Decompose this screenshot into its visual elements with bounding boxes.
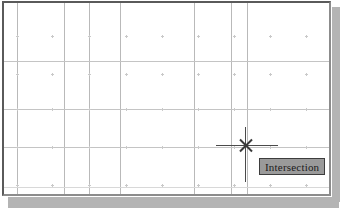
grid-dot xyxy=(233,108,236,111)
grid-line-vertical xyxy=(89,3,90,194)
grid-dot xyxy=(233,73,236,76)
grid-dot xyxy=(125,146,128,149)
grid-dot xyxy=(233,35,236,38)
grid-dot xyxy=(269,184,272,187)
grid-line-vertical xyxy=(64,3,65,194)
grid-line-horizontal xyxy=(4,187,329,188)
grid-line-vertical xyxy=(120,3,121,194)
grid-dot xyxy=(125,35,128,38)
grid-dot xyxy=(305,146,308,149)
grid-dot xyxy=(16,73,19,76)
grid-dot xyxy=(197,146,200,149)
grid-dot xyxy=(16,108,19,111)
grid-dot xyxy=(16,35,19,38)
grid-dot xyxy=(88,35,91,38)
crosshair-vertical xyxy=(245,127,246,182)
grid-dot xyxy=(16,184,19,187)
grid-dot xyxy=(233,184,236,187)
grid-dot xyxy=(88,184,91,187)
grid-dot xyxy=(269,108,272,111)
grid-dot xyxy=(125,73,128,76)
grid-dot xyxy=(125,184,128,187)
grid-dot xyxy=(51,108,54,111)
grid-dot xyxy=(197,184,200,187)
grid-dot xyxy=(161,184,164,187)
grid-dot xyxy=(305,184,308,187)
grid-dot xyxy=(51,35,54,38)
grid-dot xyxy=(269,73,272,76)
grid-dot xyxy=(269,146,272,149)
osnap-tooltip-label: Intersection xyxy=(265,161,319,173)
grid-dot xyxy=(51,146,54,149)
window-shadow-bottom xyxy=(8,197,339,208)
grid-line-horizontal xyxy=(4,61,329,62)
grid-dot xyxy=(88,108,91,111)
grid-line-vertical xyxy=(231,3,232,194)
grid-dot xyxy=(161,35,164,38)
grid-dot xyxy=(197,35,200,38)
window-shadow-right xyxy=(332,7,340,202)
grid-dot xyxy=(16,146,19,149)
grid-dot xyxy=(161,146,164,149)
screen-root: Intersection xyxy=(0,0,342,214)
grid-line-vertical xyxy=(17,3,18,194)
grid-dot xyxy=(161,73,164,76)
grid-line-vertical xyxy=(194,3,195,194)
grid-dot xyxy=(88,146,91,149)
grid-dot xyxy=(51,184,54,187)
grid-dot xyxy=(51,73,54,76)
grid-dot xyxy=(305,108,308,111)
grid-dot xyxy=(125,108,128,111)
grid-dot xyxy=(305,73,308,76)
grid-dot xyxy=(88,73,91,76)
grid-dot xyxy=(233,146,236,149)
osnap-tooltip: Intersection xyxy=(259,158,325,175)
intersection-osnap-icon xyxy=(237,137,254,154)
grid-dot xyxy=(269,35,272,38)
grid-dot xyxy=(197,73,200,76)
grid-line-vertical xyxy=(247,3,248,194)
grid-dot xyxy=(197,108,200,111)
grid-dot xyxy=(161,108,164,111)
grid-dot xyxy=(305,35,308,38)
